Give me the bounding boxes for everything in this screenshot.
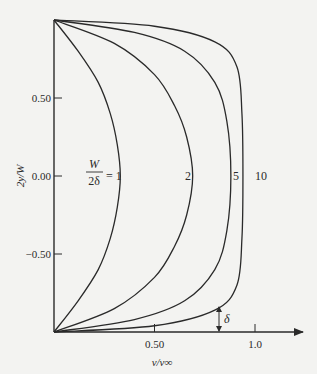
curve-label-2: 2: [185, 169, 191, 183]
velocity-curve-5: [54, 20, 231, 332]
velocity-curve-2: [54, 20, 193, 332]
velocity-curve-10: [54, 20, 243, 332]
x-ticks: 0.501.0: [145, 324, 263, 350]
parameter-label: W 2δ = 1: [86, 157, 122, 188]
y-ticks: 0.500.00−0.50: [26, 92, 62, 260]
y-tick-label: 0.00: [32, 170, 52, 182]
velocity-profile-chart: 0.500.00−0.50 0.501.0 2y/W v/v∞ W 2δ = 1…: [0, 0, 317, 374]
curve-label-5: 5: [233, 169, 239, 183]
delta-label: δ: [224, 312, 230, 326]
x-tick-label: 1.0: [248, 338, 262, 350]
y-tick-label: 0.50: [32, 92, 52, 104]
curve-label-10: 10: [255, 169, 267, 183]
x-axis-label: v/v∞: [152, 356, 173, 368]
delta-annotation: δ: [219, 307, 230, 331]
y-axis-label: 2y/W: [14, 164, 26, 187]
parameter-denominator: 2δ: [88, 174, 100, 188]
y-tick-label: −0.50: [26, 248, 52, 260]
parameter-numerator: W: [89, 157, 100, 171]
curves: [54, 20, 243, 332]
parameter-equals: = 1: [106, 169, 122, 183]
x-tick-label: 0.50: [145, 338, 165, 350]
